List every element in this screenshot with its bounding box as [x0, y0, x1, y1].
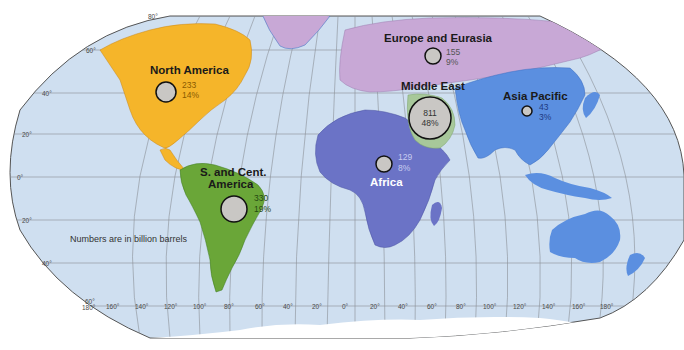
region-label: Europe and Eurasia	[384, 32, 493, 44]
reserve-value: 811	[423, 108, 437, 118]
reserve-percent: 14%	[182, 90, 199, 100]
lat-label: 40°	[42, 90, 52, 97]
lat-label: 60°	[86, 47, 96, 54]
lon-label: 60°	[255, 303, 265, 310]
lat-label: 40°	[42, 260, 52, 267]
reserve-value: 43	[539, 102, 549, 112]
lat-label: 0°	[17, 174, 24, 181]
reserve-bubble[interactable]	[425, 48, 441, 64]
lon-label: 100°	[193, 303, 207, 310]
lon-label: 60°	[427, 303, 437, 310]
lon-label: 140°	[542, 303, 556, 310]
region-label-line2: America	[208, 178, 254, 190]
region-label: Middle East	[401, 80, 465, 92]
region-label-line1: S. and Cent.	[200, 166, 266, 178]
reserve-bubble[interactable]	[522, 106, 532, 116]
reserve-bubble[interactable]	[376, 156, 392, 172]
reserve-value: 233	[182, 80, 196, 90]
lon-label: 80°	[456, 303, 466, 310]
lon-label: 180°	[600, 303, 614, 310]
reserve-value: 129	[398, 152, 412, 162]
lon-label: 180°	[82, 304, 96, 311]
lon-label: 160°	[572, 303, 586, 310]
lon-label: 20°	[370, 303, 380, 310]
units-note: Numbers are in billion barrels	[70, 234, 188, 244]
lon-label: 160°	[106, 303, 120, 310]
region-label: Asia Pacific	[503, 90, 568, 102]
lon-label: 140°	[135, 303, 149, 310]
region-label: North America	[150, 64, 229, 76]
reserve-value: 330	[254, 193, 268, 203]
lon-label: 80°	[224, 303, 234, 310]
reserve-percent: 48%	[421, 118, 438, 128]
region-label: Africa	[370, 176, 403, 188]
world-oil-reserves-map: 80° 60° 40° 20° 0° 20° 40° 60° 180° 160°…	[0, 0, 684, 350]
lon-label: 0°	[342, 303, 349, 310]
lon-label: 20°	[312, 303, 322, 310]
reserve-percent: 19%	[254, 204, 271, 214]
lon-label: 100°	[483, 303, 497, 310]
reserve-bubble[interactable]	[156, 82, 176, 102]
reserve-bubble[interactable]	[221, 196, 247, 222]
lat-label: 20°	[22, 217, 32, 224]
lat-label: 80°	[148, 13, 158, 20]
lon-label: 40°	[398, 303, 408, 310]
reserve-value: 155	[446, 47, 460, 57]
reserve-percent: 3%	[539, 112, 552, 122]
lon-label: 120°	[164, 303, 178, 310]
lat-label: 20°	[22, 131, 32, 138]
lon-label: 120°	[513, 303, 527, 310]
lon-label: 40°	[283, 303, 293, 310]
reserve-percent: 9%	[446, 57, 459, 67]
reserve-percent: 8%	[398, 163, 411, 173]
